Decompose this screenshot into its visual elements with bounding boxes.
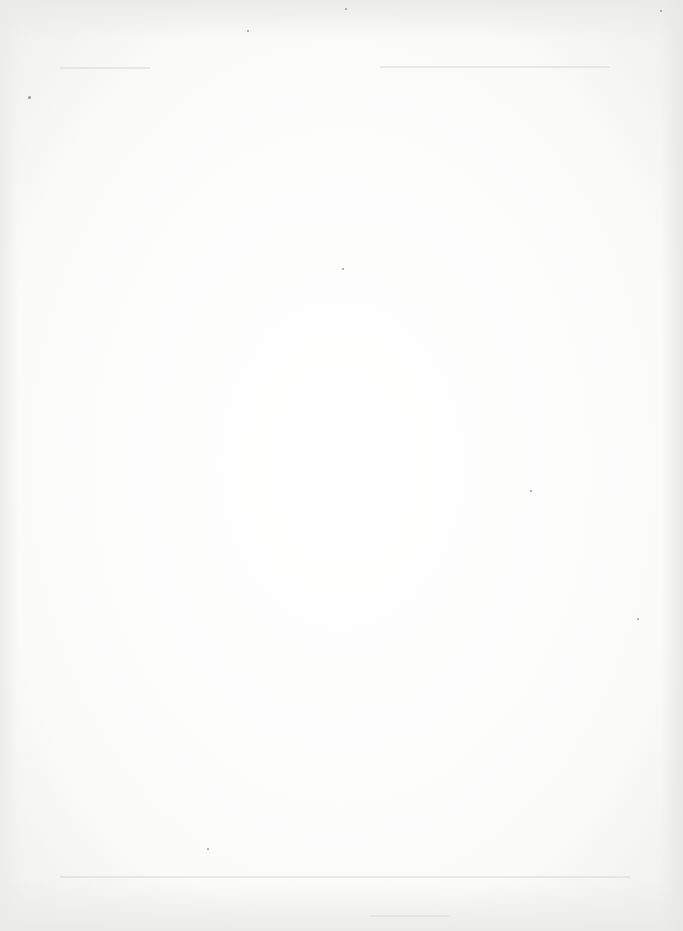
blank-scanned-page (0, 0, 683, 931)
show-through-mark (60, 67, 150, 69)
dust-speck (345, 8, 347, 10)
dust-speck (247, 30, 249, 32)
show-through-mark (380, 66, 610, 68)
dust-speck (28, 96, 31, 99)
scan-edge-top (0, 0, 683, 40)
dust-speck (530, 490, 532, 492)
dust-speck (660, 10, 662, 12)
dust-speck (207, 848, 209, 850)
dust-speck (637, 618, 639, 620)
show-through-mark (60, 876, 630, 878)
show-through-mark (370, 915, 450, 917)
scan-edge-right (661, 0, 683, 931)
scan-edge-left (0, 0, 18, 931)
scan-edge-bottom (0, 881, 683, 931)
page-content (0, 0, 1, 1)
dust-speck (342, 268, 344, 270)
